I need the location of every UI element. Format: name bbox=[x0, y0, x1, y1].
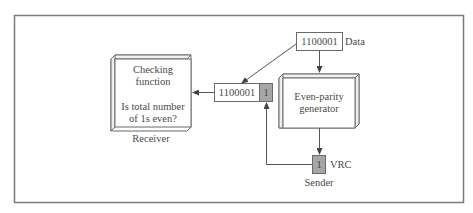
vrc-diagram: Checking function Is total number of 1s … bbox=[0, 0, 473, 213]
sender-caption: Sender bbox=[304, 177, 334, 188]
transmitted-data-bits: 1100001 bbox=[219, 87, 255, 98]
diagram-frame bbox=[15, 16, 464, 203]
generator-box: Even-parity generator bbox=[279, 74, 359, 128]
receiver-caption: Receiver bbox=[132, 133, 170, 144]
receiver-line-1: Checking bbox=[133, 64, 174, 75]
generator-line-1: Even-parity bbox=[294, 91, 344, 102]
transmitted-parity-bit: 1 bbox=[263, 87, 268, 98]
vrc-bit: 1 bbox=[316, 159, 321, 170]
receiver-box: Checking function Is total number of 1s … bbox=[111, 55, 191, 131]
source-data-bits: 1100001 bbox=[301, 36, 337, 47]
vrc-unit: 1 VRC Sender bbox=[304, 156, 351, 189]
receiver-line-2: function bbox=[136, 76, 172, 87]
generator-line-2: generator bbox=[299, 103, 339, 114]
source-data: 1100001 Data bbox=[297, 33, 366, 51]
source-data-label: Data bbox=[345, 36, 365, 47]
vrc-label: VRC bbox=[330, 159, 352, 170]
receiver-line-4: of 1s even? bbox=[129, 113, 177, 124]
transmitted-unit: 1100001 1 bbox=[215, 84, 273, 102]
receiver-line-3: Is total number bbox=[121, 101, 185, 112]
